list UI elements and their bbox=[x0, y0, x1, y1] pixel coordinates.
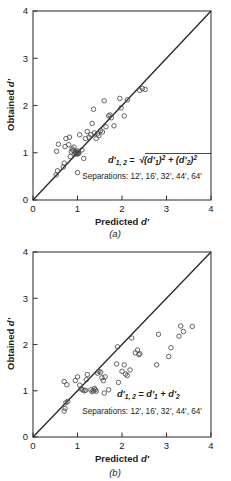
separations-label-b: Separations: 12′, 16′, 32′, 44′, 64′ bbox=[82, 407, 202, 416]
x-tick-label: 4 bbox=[208, 203, 213, 214]
data-point bbox=[190, 324, 195, 329]
data-point bbox=[102, 99, 107, 104]
y-tick-label: 2 bbox=[23, 100, 28, 111]
data-point bbox=[116, 380, 121, 385]
tick-labels-y-b: 01234 bbox=[23, 246, 28, 442]
data-point bbox=[154, 363, 159, 368]
data-point bbox=[56, 142, 61, 147]
x-tick-label: 4 bbox=[208, 440, 213, 451]
data-point bbox=[90, 121, 95, 126]
tick-labels-y-a: 01234 bbox=[23, 5, 28, 205]
y-tick-label: 0 bbox=[23, 194, 28, 205]
x-tick-label: 3 bbox=[164, 440, 169, 451]
data-point bbox=[102, 391, 107, 396]
formula-annotation-b: d'1, 2 = d'1 + d'2 bbox=[117, 389, 180, 401]
data-point bbox=[63, 406, 68, 411]
data-point bbox=[91, 107, 96, 112]
y-tick-label: 4 bbox=[23, 5, 28, 16]
data-point bbox=[103, 375, 108, 380]
data-point bbox=[94, 136, 99, 141]
data-point bbox=[112, 124, 117, 129]
data-point bbox=[81, 156, 86, 161]
figure-container: 01234 01234 Predicted d′ Obtained d′ d'1… bbox=[0, 0, 231, 481]
data-point bbox=[54, 149, 59, 154]
x-tick-label: 3 bbox=[164, 203, 169, 214]
data-point bbox=[75, 375, 80, 380]
formula-annotation-a: d'1, 2 = √(d'1)2 + (d'2)2 bbox=[108, 154, 211, 168]
axis-title-x-b: Predicted d′ bbox=[95, 453, 150, 464]
scatter-plot-b: 01234 01234 Predicted d′ Obtained d′ d'1… bbox=[0, 240, 231, 481]
y-tick-label: 1 bbox=[23, 385, 28, 396]
panel-label-b: (b) bbox=[109, 467, 121, 478]
tick-labels-x-b: 01234 bbox=[30, 440, 213, 451]
y-tick-label: 4 bbox=[23, 246, 28, 257]
y-tick-label: 1 bbox=[23, 147, 28, 158]
svg-text:d'1, 2 =: d'1, 2 = bbox=[108, 155, 135, 167]
axis-title-x-a: Predicted d′ bbox=[95, 216, 150, 227]
data-point bbox=[62, 409, 67, 414]
y-tick-label: 3 bbox=[23, 293, 28, 304]
data-point bbox=[166, 354, 171, 359]
data-point bbox=[114, 362, 119, 367]
data-point bbox=[122, 363, 127, 368]
data-point bbox=[55, 168, 60, 173]
data-point bbox=[85, 372, 90, 377]
tick-labels-x-a: 01234 bbox=[30, 203, 213, 214]
y-tick-label: 0 bbox=[23, 431, 28, 442]
data-point bbox=[100, 376, 105, 381]
x-tick-label: 1 bbox=[75, 203, 80, 214]
panel-a: 01234 01234 Predicted d′ Obtained d′ d'1… bbox=[0, 0, 231, 240]
x-tick-label: 2 bbox=[119, 203, 124, 214]
data-point bbox=[156, 332, 161, 337]
separations-label-a: Separations: 12′, 16′, 32′, 44′, 64′ bbox=[82, 172, 202, 181]
y-tick-label: 3 bbox=[23, 53, 28, 64]
data-point bbox=[122, 114, 127, 119]
axis-title-y-a: Obtained d′ bbox=[5, 78, 16, 131]
scatter-plot-a: 01234 01234 Predicted d′ Obtained d′ d'1… bbox=[0, 0, 231, 240]
data-point bbox=[130, 336, 135, 341]
data-point bbox=[169, 345, 174, 350]
data-point bbox=[77, 133, 82, 138]
axis-title-y-b: Obtained d′ bbox=[5, 317, 16, 370]
data-point bbox=[128, 368, 133, 373]
data-point bbox=[104, 125, 109, 130]
svg-text:√(d'1)2 + (d'2)2: √(d'1)2 + (d'2)2 bbox=[139, 154, 197, 166]
data-point bbox=[75, 170, 80, 175]
data-point bbox=[143, 87, 148, 92]
x-tick-label: 0 bbox=[30, 440, 35, 451]
data-point bbox=[68, 154, 73, 159]
panel-b: 01234 01234 Predicted d′ Obtained d′ d'1… bbox=[0, 240, 231, 481]
data-point bbox=[66, 142, 71, 147]
x-tick-label: 1 bbox=[75, 440, 80, 451]
data-point bbox=[118, 96, 123, 101]
data-point bbox=[65, 382, 70, 387]
panel-label-a: (a) bbox=[109, 228, 121, 239]
data-point bbox=[181, 329, 186, 334]
data-point bbox=[178, 324, 183, 329]
data-point bbox=[177, 334, 182, 339]
data-point bbox=[106, 388, 111, 393]
x-tick-label: 2 bbox=[119, 440, 124, 451]
svg-text:d'1, 2 = d'1 + d'2: d'1, 2 = d'1 + d'2 bbox=[117, 389, 180, 401]
x-tick-label: 0 bbox=[30, 203, 35, 214]
y-tick-label: 2 bbox=[23, 339, 28, 350]
